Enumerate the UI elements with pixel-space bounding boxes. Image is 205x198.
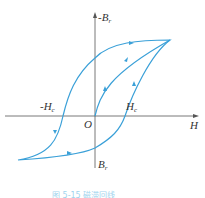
hysteresis-diagram: -Br H O -Hc Hc Br 图 5-15 磁滞回线 [0,0,205,198]
arrow-icon [132,81,136,86]
y-axis-label: -Br [98,11,111,25]
arrow-icon [53,130,57,134]
origin-label: O [84,118,92,130]
remanence-label: Br [98,158,108,172]
pos-coercivity-label: Hc [125,100,138,114]
h-axis-arrow-icon [193,114,199,118]
neg-coercivity-label: -Hc [40,100,56,114]
b-axis-arrow-icon [93,12,97,18]
arrow-icon [124,57,128,62]
x-axis-label: H [189,119,199,131]
figure-caption: 图 5-15 磁滞回线 [52,190,115,198]
